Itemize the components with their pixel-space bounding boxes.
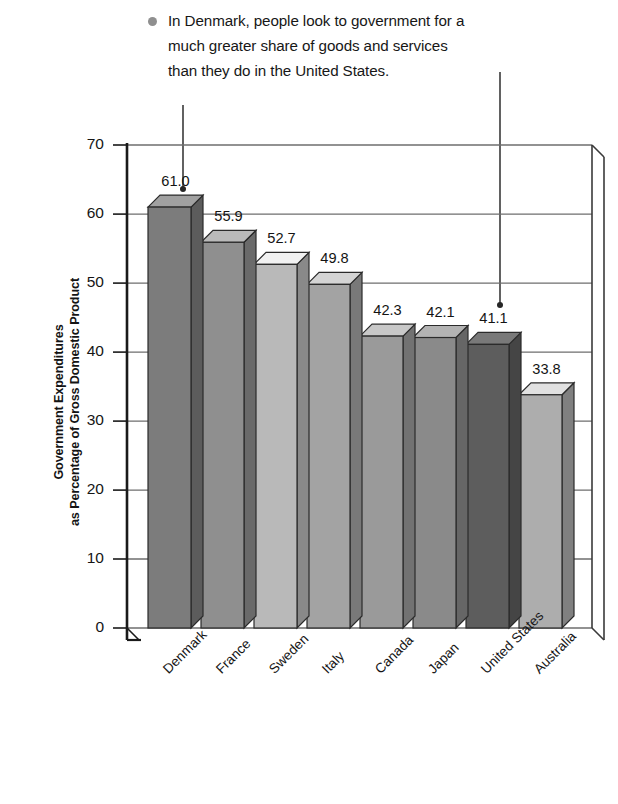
leader-line-united-states (497, 72, 503, 308)
plot-frame (592, 145, 604, 640)
bar-italy (307, 272, 362, 628)
y-tick-label: 10 (52, 549, 104, 567)
value-label: 41.1 (459, 310, 529, 326)
y-tick-label: 50 (52, 273, 104, 291)
plot-canvas (0, 0, 618, 804)
bar-canada (360, 324, 415, 628)
y-tick-label: 70 (52, 135, 104, 153)
y-tick-label: 20 (52, 480, 104, 498)
bar-denmark (148, 195, 203, 628)
bar-sweden (254, 252, 309, 628)
value-label: 61.0 (141, 173, 211, 189)
value-label: 49.8 (300, 250, 370, 266)
bar-france (201, 230, 256, 628)
value-label: 33.8 (512, 361, 582, 377)
y-tick-label: 40 (52, 342, 104, 360)
y-axis-ticks (113, 145, 127, 628)
value-label: 52.7 (247, 230, 317, 246)
y-tick-label: 60 (52, 204, 104, 222)
bar-japan (413, 326, 468, 628)
y-tick-label: 30 (52, 411, 104, 429)
bar-chart-figure: In Denmark, people look to government fo… (0, 0, 618, 804)
y-tick-label: 0 (52, 618, 104, 636)
bar-australia (519, 383, 574, 628)
value-label: 55.9 (194, 208, 264, 224)
y-axis-line (127, 143, 141, 640)
